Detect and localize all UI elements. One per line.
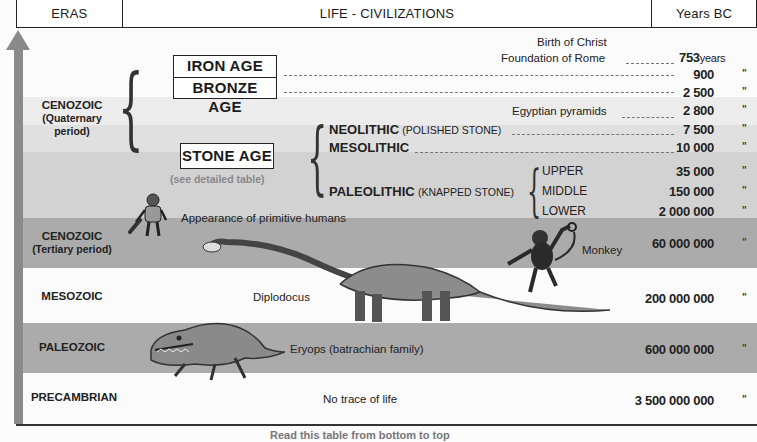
- event-primitive-humans: Appearance of primitive humans: [181, 212, 346, 224]
- paleolithic-upper: UPPER: [542, 164, 583, 178]
- header-years-bc: Years BC: [652, 0, 756, 27]
- stone-age-note: (see detailed table): [170, 173, 265, 185]
- table-header: ERAS LIFE - CIVILIZATIONS Years BC: [16, 0, 757, 28]
- year-pyramids: 2 800: [604, 103, 714, 118]
- arrow-up-icon: [6, 30, 30, 50]
- event-egyptian-pyramids: Egyptian pyramids: [512, 105, 607, 117]
- era-mesozoic: MESOZOIC: [28, 290, 116, 303]
- stone-age-box: STONE AGE: [180, 143, 274, 169]
- primitive-human-icon: [128, 192, 178, 240]
- year-bronze-age: 2 500: [604, 85, 714, 100]
- brace-paleolithic-icon: {: [527, 163, 541, 219]
- ditto-mesolithic: ": [742, 141, 747, 152]
- neolithic-label: NEOLITHIC (POLISHED STONE): [329, 122, 501, 137]
- ditto-middle: ": [742, 185, 747, 196]
- table-bottom-border: [16, 424, 757, 426]
- year-precambrian: 3 500 000 000: [604, 393, 714, 408]
- paleolithic-lower: LOWER: [542, 204, 586, 218]
- eryops-icon: [145, 312, 285, 384]
- era-cenozoic-quaternary: CENOZOIC (Quaternary period): [28, 99, 116, 138]
- year-tertiary: 60 000 000: [604, 236, 714, 251]
- ditto-pyramids: ": [742, 104, 747, 115]
- mesolithic-label: MESOLITHIC: [329, 140, 409, 155]
- bronze-age-box: BRONZE AGE: [173, 77, 277, 99]
- ditto-upper: ": [742, 165, 747, 176]
- event-no-trace-of-life: No trace of life: [323, 393, 397, 405]
- header-eras: ERAS: [17, 0, 123, 27]
- year-neolithic: 7 500: [604, 122, 714, 137]
- ditto-precambrian: ": [742, 394, 747, 405]
- header-life-civilizations: LIFE - CIVILIZATIONS: [123, 0, 653, 27]
- year-mesolithic: 10 000: [604, 140, 714, 155]
- event-birth-of-christ: Birth of Christ: [537, 36, 607, 48]
- ditto-mesozoic: ": [742, 292, 747, 303]
- brace-stone-age-icon: {: [307, 118, 327, 198]
- year-iron-age: 900: [604, 67, 714, 82]
- year-mesozoic: 200 000 000: [604, 291, 714, 306]
- brace-quaternary-icon: {: [118, 62, 144, 152]
- event-foundation-of-rome: Foundation of Rome: [501, 52, 605, 64]
- ditto-iron-age: ": [742, 68, 747, 79]
- year-lower-paleolithic: 2 000 000: [604, 204, 714, 219]
- year-middle-paleolithic: 150 000: [604, 184, 714, 199]
- event-eryops: Eryops (batrachian family): [290, 343, 424, 355]
- year-upper-paleolithic: 35 000: [604, 164, 714, 179]
- year-paleozoic: 600 000 000: [604, 342, 714, 357]
- paleolithic-label: PALEOLITHIC (KNAPPED STONE): [329, 184, 514, 199]
- year-rome: 753years: [602, 50, 756, 65]
- ditto-tertiary: ": [742, 237, 747, 248]
- paleolithic-middle: MIDDLE: [542, 184, 587, 198]
- ditto-lower: ": [742, 205, 747, 216]
- footer-caption: Read this table from bottom to top: [270, 429, 450, 441]
- ditto-neolithic: ": [742, 123, 747, 134]
- era-cenozoic-tertiary: CENOZOIC (Tertiary period): [22, 230, 122, 256]
- event-diplodocus: Diplodocus: [253, 291, 310, 303]
- ditto-paleozoic: ": [742, 343, 747, 354]
- era-paleozoic: PALEOZOIC: [28, 341, 116, 354]
- era-precambrian: PRECAMBRIAN: [24, 391, 124, 404]
- iron-age-box: IRON AGE: [173, 55, 277, 78]
- ditto-bronze-age: ": [742, 86, 747, 97]
